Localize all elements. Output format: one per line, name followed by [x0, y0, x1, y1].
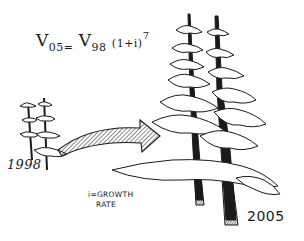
formula-rhs-var: V — [79, 30, 92, 50]
formula-rhs-subscript: 98 — [92, 41, 107, 54]
formula-lhs-subscript: 05 — [49, 41, 64, 54]
growth-formula: V05= V98 (1+i)7 — [36, 30, 150, 50]
growth-rate-legend: i=GROWTH RATE — [88, 190, 133, 210]
growth-arrow-icon — [58, 120, 160, 156]
formula-lhs-var: V — [36, 30, 49, 50]
start-year-label: 1998 — [7, 157, 41, 172]
formula-exponent: 7 — [143, 30, 150, 41]
legend-line-2: RATE — [88, 200, 133, 210]
formula-equals: = — [64, 41, 74, 54]
formula-growth-factor: (1+i) — [112, 37, 143, 50]
growth-illustration: V05= V98 (1+i)7 1998 i=GROWTH RATE 2005 — [0, 0, 304, 241]
legend-line-1: i=GROWTH — [88, 190, 133, 199]
end-year-label: 2005 — [247, 208, 285, 224]
